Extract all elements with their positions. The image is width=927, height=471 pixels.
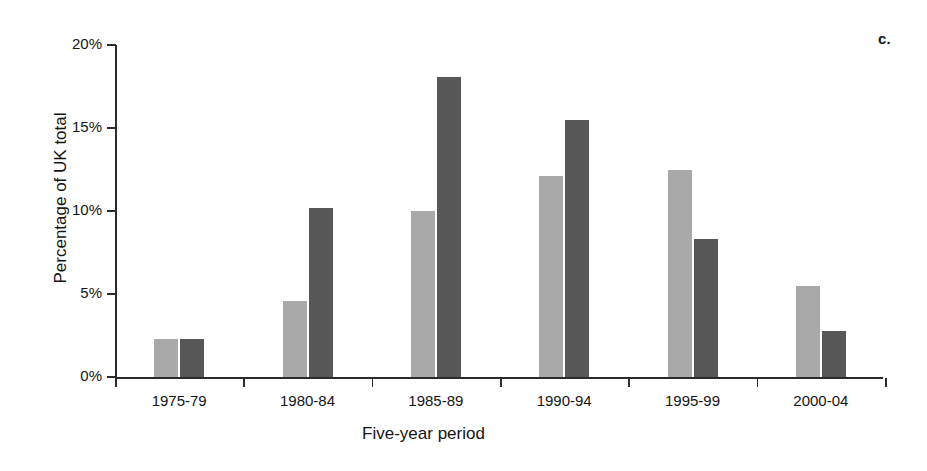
y-tick-label: 15% <box>42 118 102 135</box>
y-axis-title: Percentage of UK total <box>51 43 71 353</box>
x-tick-mark <box>115 378 117 387</box>
x-tick-mark <box>885 378 887 387</box>
x-tick-mark <box>757 378 759 387</box>
bar-series-1-1985-89 <box>411 211 435 377</box>
y-tick-label: 10% <box>42 201 102 218</box>
bar-series-2-1985-89 <box>437 77 461 377</box>
bar-series-2-1990-94 <box>565 120 589 377</box>
bar-series-1-1980-84 <box>283 301 307 377</box>
x-tick-label: 1995-99 <box>623 392 763 409</box>
x-tick-label: 1985-89 <box>366 392 506 409</box>
x-tick-label: 1980-84 <box>238 392 378 409</box>
x-tick-label: 2000-04 <box>751 392 891 409</box>
x-axis-line <box>115 377 883 379</box>
x-axis-title-text: Five-year period <box>362 424 485 443</box>
bar-series-1-1975-79 <box>154 339 178 377</box>
bar-series-2-1980-84 <box>309 208 333 377</box>
y-tick-label: 5% <box>42 284 102 301</box>
x-axis-title: Five-year period <box>0 424 927 444</box>
x-tick-label: 1990-94 <box>494 392 634 409</box>
x-tick-mark <box>500 378 502 387</box>
x-tick-mark <box>372 378 374 387</box>
bar-series-2-1975-79 <box>180 339 204 377</box>
bar-series-1-2000-04 <box>796 286 820 377</box>
bar-series-2-2000-04 <box>822 331 846 377</box>
y-tick-label: 20% <box>42 35 102 52</box>
x-tick-mark <box>243 378 245 387</box>
bar-series-1-1990-94 <box>539 176 563 377</box>
bar-series-1-1995-99 <box>668 170 692 378</box>
plot-area <box>115 45 885 377</box>
chart-figure: c. Percentage of UK total 0%5%10%15%20% … <box>0 0 927 471</box>
x-tick-mark <box>628 378 630 387</box>
bar-series-2-1995-99 <box>694 239 718 377</box>
x-tick-label: 1975-79 <box>109 392 249 409</box>
y-tick-label: 0% <box>42 367 102 384</box>
